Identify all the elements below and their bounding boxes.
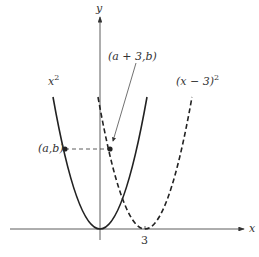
y-axis-label: y bbox=[96, 3, 102, 14]
annotation-arrow bbox=[113, 63, 136, 141]
curve-label-shifted: (x − 3)2 bbox=[176, 74, 219, 87]
curve-label-exponent: 2 bbox=[54, 73, 59, 82]
curve-label-x-squared: x2 bbox=[48, 74, 59, 87]
x-axis-label: x bbox=[249, 223, 255, 234]
point-label-a-plus-3-b: (a + 3,b) bbox=[108, 51, 157, 62]
point-label-a-b: (a,b) bbox=[38, 143, 64, 154]
point-a-plus-3-b bbox=[107, 146, 112, 151]
figure-graphics bbox=[0, 0, 259, 257]
shifted-parabola-figure: y x 3 x2 (x − 3)2 (a,b) (a + 3,b) bbox=[0, 0, 259, 257]
curve-label-exponent: 2 bbox=[214, 73, 219, 82]
x-tick-label-3: 3 bbox=[141, 235, 148, 246]
curve-label-base: (x − 3) bbox=[176, 75, 214, 88]
parabola-x-minus-3-squared bbox=[98, 97, 192, 229]
